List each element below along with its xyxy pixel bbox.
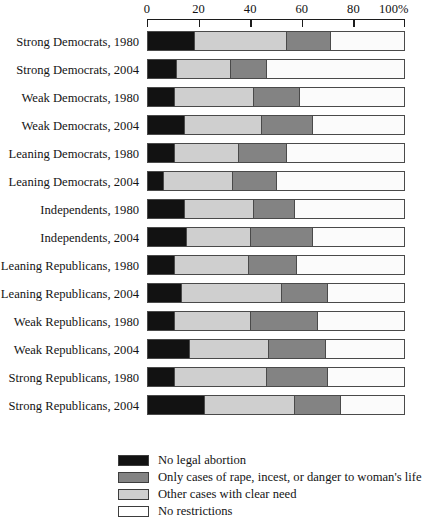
bar-segment [253, 88, 299, 106]
bar-segment [248, 256, 297, 274]
bar-segment [148, 368, 174, 386]
bar-segment [148, 256, 174, 274]
category-label: Weak Republicans, 1980 [14, 308, 139, 336]
legend-swatch [118, 455, 149, 466]
stacked-bar [147, 367, 405, 387]
stacked-bar [147, 199, 405, 219]
chart-row: Strong Democrats, 2004 [147, 56, 405, 84]
bar-segment [148, 116, 184, 134]
x-axis-tick-mark [353, 20, 354, 27]
legend-item: Other cases with clear need [118, 486, 417, 503]
bar-segment [148, 32, 194, 50]
bar-segment [253, 200, 294, 218]
bar-segment [148, 88, 174, 106]
bar-segment [232, 172, 276, 190]
stacked-bar [147, 59, 405, 79]
x-axis-tick-label: 0 [144, 0, 150, 18]
bar-segment [148, 172, 163, 190]
bar-segment [268, 340, 324, 358]
bar-segment [194, 32, 286, 50]
bar-segment [312, 116, 404, 134]
bar-segment [325, 340, 404, 358]
bar-segment [174, 144, 238, 162]
bar-segment [189, 340, 268, 358]
legend-label: No legal abortion [158, 452, 246, 469]
stacked-bar [147, 395, 405, 415]
chart-row: Leaning Democrats, 1980 [147, 140, 405, 168]
category-label: Leaning Republicans, 1980 [1, 252, 139, 280]
bar-segment [266, 368, 327, 386]
category-label: Strong Democrats, 1980 [16, 28, 139, 56]
plot-area: Strong Democrats, 1980Strong Democrats, … [147, 28, 405, 420]
bar-segment [294, 396, 340, 414]
bar-segment [186, 228, 250, 246]
x-axis-tick-label: 40 [244, 0, 257, 18]
stacked-bar [147, 31, 405, 51]
bar-segment [286, 32, 330, 50]
bar-segment [184, 116, 261, 134]
category-label: Leaning Democrats, 2004 [9, 168, 139, 196]
bar-segment [281, 284, 327, 302]
chart-row: Leaning Republicans, 1980 [147, 252, 405, 280]
bar-segment [174, 368, 266, 386]
bar-segment [340, 396, 404, 414]
legend-item: Only cases of rape, incest, or danger to… [118, 469, 417, 486]
category-label: Leaning Democrats, 1980 [9, 140, 139, 168]
x-axis-tick-labels: 020406080100% [147, 0, 405, 18]
x-axis-tick-mark [250, 20, 251, 27]
chart-row: Strong Democrats, 1980 [147, 28, 405, 56]
stacked-bar [147, 143, 405, 163]
bar-segment [204, 396, 294, 414]
bar-segment [174, 88, 253, 106]
bar-segment [250, 228, 311, 246]
category-label: Strong Republicans, 2004 [9, 392, 139, 420]
bar-segment [148, 200, 184, 218]
chart-row: Strong Republicans, 2004 [147, 392, 405, 420]
category-label: Weak Democrats, 1980 [21, 84, 139, 112]
bar-segment [181, 284, 281, 302]
bar-segment [148, 228, 186, 246]
x-axis-tick-mark [404, 20, 405, 27]
x-axis: 020406080100% [147, 0, 405, 30]
bar-segment [261, 116, 312, 134]
x-axis-tick-mark [302, 20, 303, 27]
category-label: Weak Republicans, 2004 [14, 336, 139, 364]
chart-row: Weak Republicans, 2004 [147, 336, 405, 364]
stacked-bar [147, 115, 405, 135]
x-axis-tick-mark [199, 20, 200, 27]
bar-segment [266, 60, 404, 78]
bar-segment [238, 144, 287, 162]
x-axis-tick-label: 80 [347, 0, 360, 18]
bar-segment [250, 312, 317, 330]
category-label: Strong Republicans, 1980 [9, 364, 139, 392]
bar-segment [176, 60, 230, 78]
category-label: Independents, 1980 [40, 196, 139, 224]
category-label: Leaning Republicans, 2004 [1, 280, 139, 308]
stacked-bar [147, 171, 405, 191]
legend-swatch [118, 472, 149, 483]
chart-row: Weak Republicans, 1980 [147, 308, 405, 336]
chart-row: Weak Democrats, 1980 [147, 84, 405, 112]
legend-swatch [118, 489, 149, 500]
x-axis-line [147, 19, 405, 20]
bar-segment [294, 200, 404, 218]
bar-segment [148, 312, 174, 330]
chart-row: Strong Republicans, 1980 [147, 364, 405, 392]
stacked-bar [147, 87, 405, 107]
chart-row: Leaning Democrats, 2004 [147, 168, 405, 196]
legend-item: No restrictions [118, 503, 417, 520]
chart-row: Leaning Republicans, 2004 [147, 280, 405, 308]
bar-segment [330, 32, 404, 50]
bar-segment [299, 88, 404, 106]
stacked-bar [147, 283, 405, 303]
legend-swatch [118, 506, 149, 517]
x-axis-tick-label: 100% [379, 0, 409, 18]
bar-segment [163, 172, 232, 190]
bar-segment [327, 284, 404, 302]
category-label: Strong Democrats, 2004 [16, 56, 139, 84]
stacked-bar [147, 311, 405, 331]
legend-label: Other cases with clear need [158, 486, 296, 503]
bar-segment [148, 144, 174, 162]
bar-segment [174, 256, 248, 274]
